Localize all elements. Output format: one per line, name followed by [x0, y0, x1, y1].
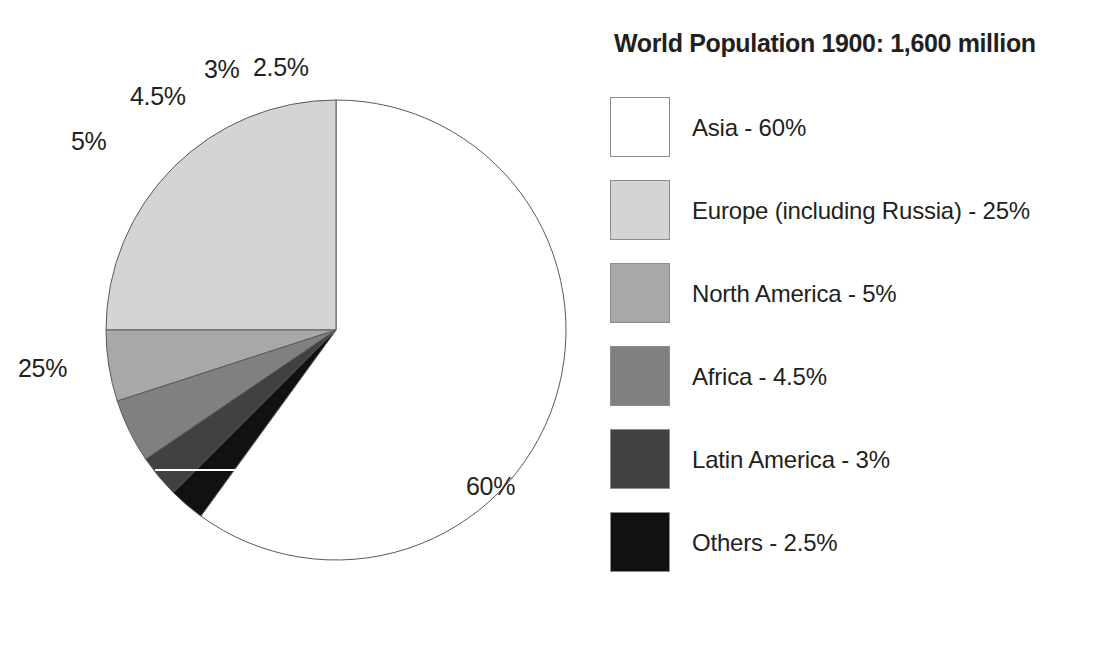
legend-item-asia[interactable]: Asia - 60% — [610, 97, 1090, 161]
pie-callout-latin-america: 3% — [204, 57, 240, 82]
legend-swatch-africa — [610, 346, 670, 406]
pie-slice-europe-including-russia[interactable] — [106, 100, 336, 330]
legend-label-asia: Asia - 60% — [692, 97, 806, 159]
pie-callout-north-america: 5% — [71, 129, 107, 154]
legend-panel: World Population 1900: 1,600 million Asi… — [600, 0, 1104, 649]
chart-area: 2.5% 3% 4.5% 5% 25% 60% — [0, 0, 600, 649]
legend-item-north-america[interactable]: North America - 5% — [610, 263, 1090, 327]
legend-label-north-america: North America - 5% — [692, 263, 896, 325]
legend-item-others[interactable]: Others - 2.5% — [610, 512, 1090, 576]
pie-callout-others: 2.5% — [253, 55, 309, 80]
pie-callout-africa: 4.5% — [130, 84, 186, 109]
pie-chart-svg — [0, 0, 600, 649]
legend-item-africa[interactable]: Africa - 4.5% — [610, 346, 1090, 410]
legend-swatch-europe-including-russia — [610, 180, 670, 240]
legend-item-europe-including-russia[interactable]: Europe (including Russia) - 25% — [610, 180, 1090, 244]
legend-swatch-asia — [610, 97, 670, 157]
legend-swatch-others — [610, 512, 670, 572]
legend-swatch-latin-america — [610, 429, 670, 489]
legend-label-africa: Africa - 4.5% — [692, 346, 827, 408]
legend-label-europe-including-russia: Europe (including Russia) - 25% — [692, 180, 1030, 242]
pie-callout-asia: 60% — [466, 474, 515, 499]
pie-chart-figure: 2.5% 3% 4.5% 5% 25% 60% World Population… — [0, 0, 1104, 649]
chart-title: World Population 1900: 1,600 million — [614, 29, 1036, 58]
legend-swatch-north-america — [610, 263, 670, 323]
legend-label-others: Others - 2.5% — [692, 512, 837, 574]
legend-label-latin-america: Latin America - 3% — [692, 429, 890, 491]
pie-callout-europe: 25% — [18, 356, 67, 381]
legend-item-latin-america[interactable]: Latin America - 3% — [610, 429, 1090, 493]
